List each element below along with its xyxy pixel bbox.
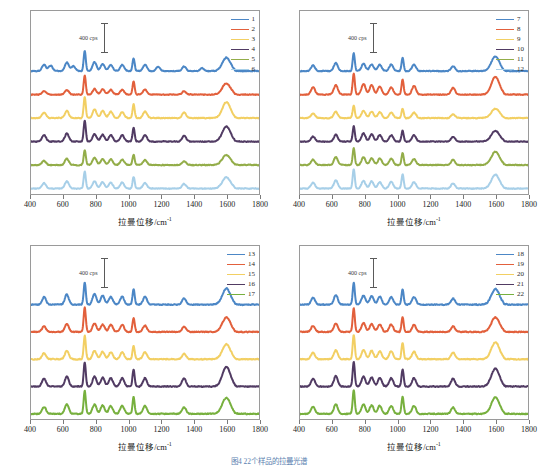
x-axis-tick-label: 1600 xyxy=(219,425,235,434)
x-axis-tick-label: 1800 xyxy=(521,200,537,209)
spectrum-trace xyxy=(31,391,259,415)
x-axis-tick xyxy=(194,195,195,199)
legend-color-swatch xyxy=(496,49,514,50)
legend-item[interactable]: 3 xyxy=(231,35,256,44)
legend-item[interactable]: 4 xyxy=(231,45,256,54)
x-axis-tick xyxy=(63,420,64,424)
legend-item[interactable]: 17 xyxy=(227,290,255,299)
x-axis-title-text: 拉曼位移/cm xyxy=(118,442,167,452)
legend-color-swatch xyxy=(496,274,514,275)
scale-bar-label: 400 cps xyxy=(348,35,367,41)
x-axis-tick xyxy=(161,420,162,424)
legend-item[interactable]: 8 xyxy=(496,25,524,34)
legend-item[interactable]: 16 xyxy=(227,280,255,289)
spectrum-trace xyxy=(31,307,259,332)
legend-item[interactable]: 12 xyxy=(496,65,524,74)
plot-area-top-left: 400 cps 123456 xyxy=(30,10,260,195)
legend-item[interactable]: 2 xyxy=(231,25,256,34)
x-axis-tick xyxy=(430,195,431,199)
panel-grid: 400 cps 123456 4006008001000120014001600… xyxy=(0,0,538,452)
legend-top-left: 123456 xyxy=(231,15,256,74)
x-axis-tick xyxy=(260,420,261,424)
legend-label: 2 xyxy=(252,25,256,34)
legend-item[interactable]: 19 xyxy=(496,260,524,269)
x-axis-tick-label: 600 xyxy=(326,200,338,209)
legend-color-swatch xyxy=(496,69,514,70)
legend-color-swatch xyxy=(231,19,249,20)
legend-color-swatch xyxy=(496,264,514,265)
legend-item[interactable]: 10 xyxy=(496,45,524,54)
legend-item[interactable]: 14 xyxy=(227,260,255,269)
x-axis-tick xyxy=(332,420,333,424)
x-axis-tick xyxy=(299,195,300,199)
spectrum-trace xyxy=(31,97,259,118)
x-axis-tick xyxy=(398,195,399,199)
legend-item[interactable]: 9 xyxy=(496,35,524,44)
spectrum-trace xyxy=(300,362,528,387)
legend-label: 10 xyxy=(517,45,524,54)
scale-bar-label: 400 cps xyxy=(79,35,98,41)
x-axis-tick-label: 1000 xyxy=(121,425,137,434)
panel-bottom-left: 400 cps 1314151617 400600800100012001400… xyxy=(0,235,269,460)
x-axis-tick-label: 600 xyxy=(57,200,69,209)
x-axis-tick xyxy=(30,420,31,424)
x-axis-tick xyxy=(299,420,300,424)
x-axis-tick xyxy=(260,195,261,199)
scale-bar-top-right: 400 cps xyxy=(348,23,377,53)
legend-item[interactable]: 6 xyxy=(231,65,256,74)
legend-item[interactable]: 11 xyxy=(496,55,524,64)
plot-area-bottom-left: 400 cps 1314151617 xyxy=(30,245,260,420)
scale-bar-bottom-left: 400 cps xyxy=(79,258,108,288)
legend-label: 21 xyxy=(517,280,524,289)
x-axis-tick-label: 400 xyxy=(24,200,36,209)
spectra-lines-top-left xyxy=(31,11,259,194)
x-axis-tick xyxy=(332,195,333,199)
x-axis-tick-label: 800 xyxy=(90,425,102,434)
legend-label: 6 xyxy=(252,65,256,74)
spectrum-trace xyxy=(300,283,528,305)
x-axis-tick-label: 600 xyxy=(326,425,338,434)
x-axis-tick-label: 800 xyxy=(90,200,102,209)
x-axis-title-exponent: -1 xyxy=(167,216,172,222)
legend-item[interactable]: 21 xyxy=(496,280,524,289)
legend-label: 8 xyxy=(517,25,521,34)
x-axis-tick xyxy=(463,195,464,199)
legend-label: 7 xyxy=(517,15,521,24)
legend-color-swatch xyxy=(227,254,245,255)
legend-item[interactable]: 7 xyxy=(496,15,524,24)
legend-label: 17 xyxy=(248,290,255,299)
x-axis-tick xyxy=(161,195,162,199)
legend-color-swatch xyxy=(231,29,249,30)
legend-color-swatch xyxy=(496,29,514,30)
spectrum-trace xyxy=(300,308,528,332)
x-axis-title-top-right: 拉曼位移/cm-1 xyxy=(299,215,529,227)
legend-label: 9 xyxy=(517,35,521,44)
x-axis-tick-label: 1200 xyxy=(422,200,438,209)
legend-label: 15 xyxy=(248,270,255,279)
raman-spectra-figure: 400 cps 123456 4006008001000120014001600… xyxy=(0,0,538,471)
legend-item[interactable]: 5 xyxy=(231,55,256,64)
x-axis-tick-label: 1400 xyxy=(186,425,202,434)
spectrum-trace xyxy=(300,335,528,360)
panel-top-left: 400 cps 123456 4006008001000120014001600… xyxy=(0,0,269,235)
legend-item[interactable]: 15 xyxy=(227,270,255,279)
legend-label: 18 xyxy=(517,250,524,259)
x-axis-tick-label: 400 xyxy=(293,200,305,209)
legend-item[interactable]: 13 xyxy=(227,250,255,259)
x-axis-title-bottom-left: 拉曼位移/cm-1 xyxy=(30,440,260,452)
legend-item[interactable]: 22 xyxy=(496,290,524,299)
legend-item[interactable]: 18 xyxy=(496,250,524,259)
x-axis-tick xyxy=(129,195,130,199)
scale-bar-ibeam-icon xyxy=(370,23,377,53)
scale-bar-top-left: 400 cps xyxy=(79,23,108,53)
x-axis-tick-label: 400 xyxy=(293,425,305,434)
legend-item[interactable]: 20 xyxy=(496,270,524,279)
legend-color-swatch xyxy=(227,294,245,295)
legend-item[interactable]: 1 xyxy=(231,15,256,24)
legend-color-swatch xyxy=(231,59,249,60)
scale-bar-ibeam-icon xyxy=(101,23,108,53)
legend-color-swatch xyxy=(496,39,514,40)
legend-color-swatch xyxy=(496,59,514,60)
x-axis-tick xyxy=(365,195,366,199)
legend-color-swatch xyxy=(496,284,514,285)
